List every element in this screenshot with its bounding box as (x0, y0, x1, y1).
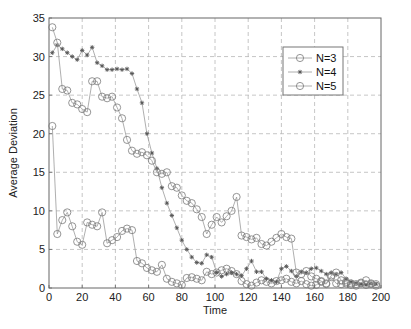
data-point (170, 213, 174, 217)
data-point (274, 280, 278, 284)
data-point (85, 53, 89, 57)
data-point (249, 259, 253, 263)
x-tick-label: 80 (176, 291, 188, 303)
star-marker-icon (298, 70, 302, 74)
data-point (160, 186, 164, 190)
data-point (264, 277, 268, 281)
y-tick-label: 20 (33, 128, 45, 140)
data-point (319, 269, 323, 273)
data-point (125, 67, 129, 71)
data-point (269, 278, 273, 282)
x-axis-label: Time (203, 304, 227, 316)
data-point (229, 270, 233, 274)
data-point (284, 264, 288, 268)
data-point (200, 261, 204, 265)
data-point (75, 57, 79, 61)
x-tick-label: 20 (76, 291, 88, 303)
y-tick-label: 0 (39, 282, 45, 294)
legend: N=3N=4N=5 (283, 47, 343, 95)
x-tick-label: 140 (272, 291, 290, 303)
x-tick-label: 200 (372, 291, 390, 303)
data-point (135, 87, 139, 91)
y-axis-label: Average Deviation (7, 108, 19, 198)
data-point (175, 226, 179, 230)
y-tick-label: 30 (33, 51, 45, 63)
data-point (244, 267, 248, 271)
data-point (115, 67, 119, 71)
data-point (195, 260, 199, 264)
data-point (180, 238, 184, 242)
legend-label: N=3 (316, 52, 337, 64)
data-point (165, 201, 169, 205)
data-point (80, 48, 84, 52)
data-point (254, 270, 258, 274)
y-tick-label: 5 (39, 243, 45, 255)
legend-label: N=5 (316, 80, 337, 92)
data-point (95, 61, 99, 65)
y-tick-label: 10 (33, 205, 45, 217)
y-tick-label: 35 (33, 12, 45, 24)
x-tick-label: 120 (239, 291, 257, 303)
data-point (214, 270, 218, 274)
data-point (145, 132, 149, 136)
x-tick-label: 180 (339, 291, 357, 303)
y-tick-label: 25 (33, 89, 45, 101)
x-tick-label: 160 (305, 291, 323, 303)
data-point (190, 255, 194, 259)
data-point (224, 272, 228, 276)
data-point (234, 272, 238, 276)
y-tick-label: 15 (33, 166, 45, 178)
data-point (110, 67, 114, 71)
data-point (120, 67, 124, 71)
x-tick-label: 100 (206, 291, 224, 303)
line-chart: 05101520253035 0204060801001201401601802… (0, 0, 411, 329)
data-point (205, 253, 209, 257)
data-point (219, 274, 223, 278)
data-point (100, 64, 104, 68)
data-point (105, 67, 109, 71)
x-tick-label: 40 (109, 291, 121, 303)
data-point (185, 247, 189, 251)
data-point (259, 270, 263, 274)
legend-label: N=4 (316, 66, 337, 78)
data-point (130, 71, 134, 75)
x-tick-label: 0 (46, 291, 52, 303)
data-point (239, 273, 243, 277)
data-point (90, 45, 94, 49)
x-tick-label: 60 (142, 291, 154, 303)
data-point (314, 266, 318, 270)
data-point (279, 267, 283, 271)
data-point (70, 54, 74, 58)
data-point (140, 101, 144, 105)
data-point (209, 255, 213, 259)
